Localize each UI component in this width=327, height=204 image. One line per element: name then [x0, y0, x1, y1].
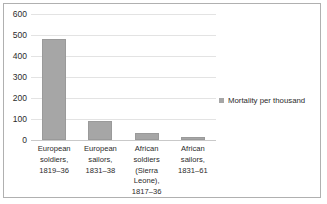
bar [42, 39, 66, 140]
x-axis-label-line: European [31, 144, 77, 155]
chart-frame: 6005004003002001000 Europeansoldiers,181… [3, 3, 321, 198]
x-axis-label-line: African [170, 144, 216, 155]
bar [135, 133, 159, 140]
x-axis-label-line: European [77, 144, 123, 155]
gridline: 500 [31, 35, 216, 36]
x-axis-label-line: soldiers [124, 155, 170, 166]
legend: Mortality per thousand [219, 97, 305, 105]
x-axis-label-line: 1817–36 [124, 187, 170, 198]
bar [88, 121, 112, 140]
x-axis-labels: Europeansoldiers,1819–36Europeansailors,… [31, 144, 216, 200]
y-axis-tick-label: 400 [1, 52, 27, 61]
y-axis-tick-label: 200 [1, 94, 27, 103]
y-axis-tick-label: 600 [1, 10, 27, 19]
x-axis-category-label: Africansoldiers(SierraLeone),1817–36 [124, 144, 170, 200]
x-axis-label-line: 1831–38 [77, 166, 123, 177]
gridline: 600 [31, 14, 216, 15]
y-axis-tick-label: 300 [1, 73, 27, 82]
x-axis-label-line: sailors, [77, 155, 123, 166]
y-axis-tick-label: 100 [1, 115, 27, 124]
axis-baseline: 0 [31, 140, 216, 141]
legend-label: Mortality per thousand [228, 97, 305, 105]
x-axis-label-line: sailors, [170, 155, 216, 166]
x-axis-label-line: soldiers, [31, 155, 77, 166]
y-axis-tick-label: 0 [1, 136, 27, 145]
y-axis-tick-label: 500 [1, 31, 27, 40]
x-axis-label-line: African [124, 144, 170, 155]
legend-swatch-icon [219, 98, 224, 103]
plot-area: 6005004003002001000 [31, 14, 216, 140]
x-axis-category-label: Europeansailors,1831–38 [77, 144, 123, 200]
x-axis-label-line: (Sierra [124, 166, 170, 177]
x-axis-label-line: 1819–36 [31, 166, 77, 177]
x-axis-label-line: Leone), [124, 176, 170, 187]
x-axis-category-label: Africansailors,1831–61 [170, 144, 216, 200]
x-axis-label-line: 1831–61 [170, 166, 216, 177]
x-axis-category-label: Europeansoldiers,1819–36 [31, 144, 77, 200]
bar [181, 137, 205, 140]
